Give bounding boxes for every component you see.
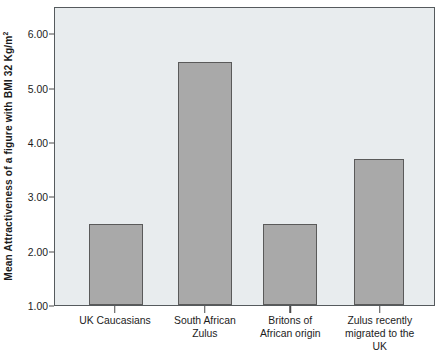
x-axis-tick-mark: [204, 306, 206, 313]
x-axis-category-label-line: Zulus recently: [326, 314, 434, 327]
bar: [178, 62, 233, 305]
x-axis-tick-mark: [114, 306, 116, 313]
y-axis-tick-label: 6.00: [28, 29, 48, 40]
x-axis-tick-mark: [289, 306, 291, 313]
bar: [263, 224, 318, 305]
y-axis-title-main: Mean Attractiveness of a figure with BMI…: [4, 35, 15, 280]
bar: [354, 159, 405, 305]
y-axis-title: Mean Attractiveness of a figure with BMI…: [0, 0, 20, 312]
bar: [89, 224, 143, 305]
x-axis-category-label-line: migrated to the: [326, 327, 434, 340]
x-axis-category-labels: UK CaucasiansSouth AfricanZulusBritons o…: [54, 314, 435, 359]
y-axis-tick-label: 4.00: [28, 137, 48, 148]
x-axis-category-label-line: UK: [326, 340, 434, 353]
y-axis-title-superscript: 2: [3, 31, 10, 35]
y-axis-tick-label: 5.00: [28, 83, 48, 94]
x-axis-category-label: Zulus recentlymigrated to theUK: [326, 314, 434, 354]
plot-area: [54, 7, 435, 306]
y-axis-tick-label: 3.00: [28, 192, 48, 203]
y-axis-tick-labels: 1.002.003.004.005.006.00: [18, 0, 54, 359]
y-axis-tick-label: 1.00: [28, 301, 48, 312]
x-axis-tick-marks: [54, 306, 435, 313]
bar-chart-figure: Mean Attractiveness of a figure with BMI…: [0, 0, 448, 359]
x-axis-tick-mark: [379, 306, 381, 313]
plot-inner: [55, 8, 434, 305]
y-axis-tick-label: 2.00: [28, 246, 48, 257]
y-axis-title-text: Mean Attractiveness of a figure with BMI…: [5, 31, 15, 280]
